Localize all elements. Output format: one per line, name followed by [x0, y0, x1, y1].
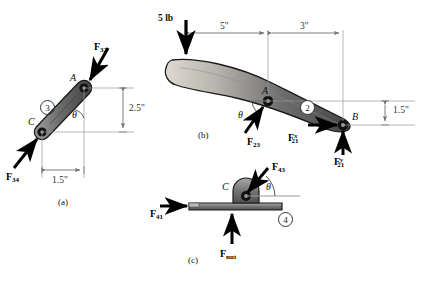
caption-b: (b) — [198, 131, 209, 140]
dimension-label-1p5in-a: 1.5" — [52, 176, 68, 186]
dimension-1p5in-b — [381, 101, 389, 125]
force-label-F32: F32 — [94, 42, 107, 54]
force-arrow-F34 — [14, 139, 37, 168]
point-label-C-c: C — [222, 182, 229, 192]
link-2-body — [165, 59, 350, 131]
dimension-1p5in-a — [42, 166, 84, 174]
caption-c: (c) — [188, 256, 198, 265]
angle-label-theta-b: θ — [238, 110, 243, 120]
dimension-label-3in: 3" — [300, 22, 309, 32]
dimension-label-5in: 5" — [220, 22, 229, 32]
figure-canvas: F32 F34 A C θ 2.5" 1.5" 3 (a) 5 lb 5" 3"… — [0, 0, 421, 282]
force-label-F23: F23 — [247, 137, 260, 149]
force-arrow-F23 — [245, 107, 263, 133]
angle-label-theta-a: θ — [72, 110, 77, 120]
force-label-F21y: Fy21 — [334, 157, 344, 169]
point-label-B-b: B — [352, 112, 358, 122]
point-label-A-b: A — [262, 86, 268, 96]
part-a-dimension-lines — [42, 88, 134, 178]
force-label-F43: F43 — [272, 162, 285, 174]
diagram-svg — [0, 0, 421, 282]
caption-a: (a) — [58, 198, 68, 207]
link-number-2: 2 — [300, 100, 315, 115]
link-number-3: 3 — [40, 100, 55, 115]
force-label-F41: F41 — [150, 209, 163, 221]
dimension-2p5in — [119, 88, 127, 132]
angle-label-theta-c: θ — [266, 182, 271, 192]
force-label-F21x: Fx21 — [288, 133, 299, 145]
link-number-4: 4 — [278, 212, 293, 227]
force-label-Fnut: Fnut — [220, 249, 236, 261]
part-c-group — [160, 168, 300, 244]
point-label-C-a: C — [28, 117, 35, 127]
dimension-label-2p5in: 2.5" — [129, 104, 145, 114]
load-label-5lb: 5 lb — [158, 14, 173, 24]
dimension-label-1p5in-b: 1.5" — [393, 106, 409, 116]
force-label-F34: F34 — [6, 172, 19, 184]
point-label-A-a: A — [70, 73, 76, 83]
